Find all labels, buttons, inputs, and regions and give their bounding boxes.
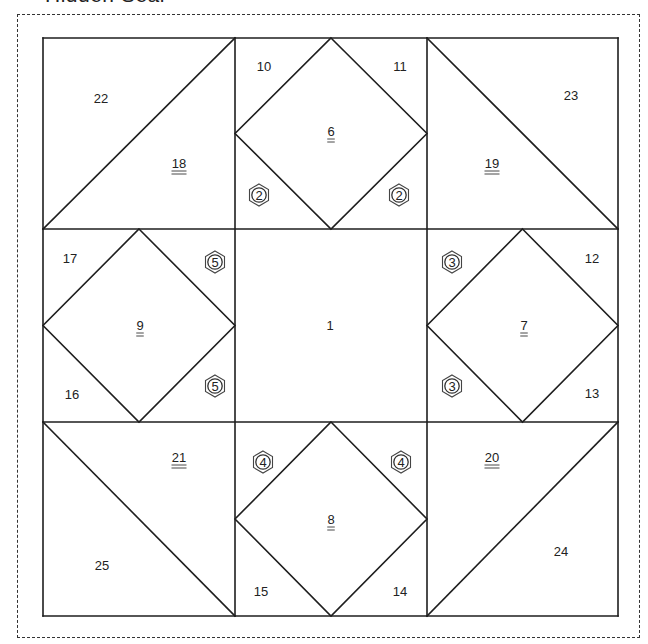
svg-text:16: 16 <box>65 387 79 402</box>
svg-text:19: 19 <box>485 156 499 171</box>
sewing-order-badge: 2 <box>390 184 409 206</box>
piece-label-15: 15 <box>254 584 268 599</box>
svg-text:7: 7 <box>520 318 527 333</box>
svg-text:13: 13 <box>585 386 599 401</box>
piece-label-19: 19 <box>485 156 500 174</box>
svg-text:3: 3 <box>448 255 455 270</box>
svg-text:9: 9 <box>136 318 143 333</box>
svg-text:21: 21 <box>172 450 186 465</box>
sewing-order-badge: 5 <box>206 375 225 397</box>
piece-label-24: 24 <box>554 544 568 559</box>
sewing-order-badge: 2 <box>250 184 269 206</box>
svg-text:12: 12 <box>585 251 599 266</box>
piece-label-25: 25 <box>95 558 109 573</box>
piece-label-12: 12 <box>585 251 599 266</box>
diagonal-bottom-right <box>427 422 618 616</box>
piece-label-6: 6 <box>327 124 335 142</box>
sewing-order-badge: 4 <box>254 451 273 473</box>
diagonal-bottom-left <box>43 422 235 616</box>
svg-text:5: 5 <box>211 379 218 394</box>
sewing-order-badge: 3 <box>443 251 462 273</box>
piece-label-1: 1 <box>326 318 333 333</box>
sewing-order-badge: 5 <box>206 251 225 273</box>
piece-label-18: 18 <box>172 156 187 174</box>
svg-text:1: 1 <box>326 318 333 333</box>
svg-text:17: 17 <box>63 251 77 266</box>
svg-text:18: 18 <box>172 156 186 171</box>
piece-label-16: 16 <box>65 387 79 402</box>
svg-text:4: 4 <box>259 455 266 470</box>
piece-label-14: 14 <box>393 584 407 599</box>
svg-text:25: 25 <box>95 558 109 573</box>
svg-text:15: 15 <box>254 584 268 599</box>
piece-labels: 1678910111213141516171819202122232425 <box>63 59 599 599</box>
piece-label-22: 22 <box>94 91 108 106</box>
quilt-block-diagram: 1678910111213141516171819202122232425 22… <box>0 0 648 644</box>
piece-label-8: 8 <box>327 512 335 530</box>
svg-text:11: 11 <box>393 59 407 74</box>
piece-label-11: 11 <box>393 59 407 74</box>
svg-text:22: 22 <box>94 91 108 106</box>
svg-text:5: 5 <box>211 255 218 270</box>
svg-text:4: 4 <box>397 455 404 470</box>
piece-label-20: 20 <box>485 450 500 468</box>
sewing-order-badge: 3 <box>443 375 462 397</box>
svg-text:23: 23 <box>564 88 578 103</box>
svg-text:24: 24 <box>554 544 568 559</box>
svg-text:3: 3 <box>448 379 455 394</box>
svg-text:10: 10 <box>257 59 271 74</box>
piece-label-13: 13 <box>585 386 599 401</box>
piece-label-9: 9 <box>136 318 144 336</box>
svg-text:8: 8 <box>327 512 334 527</box>
piece-label-17: 17 <box>63 251 77 266</box>
svg-text:2: 2 <box>395 188 402 203</box>
piece-label-23: 23 <box>564 88 578 103</box>
sewing-order-badge: 4 <box>392 451 411 473</box>
diagonal-top-right <box>427 38 618 229</box>
piece-label-21: 21 <box>172 450 187 468</box>
svg-text:14: 14 <box>393 584 407 599</box>
piece-label-10: 10 <box>257 59 271 74</box>
diagonal-top-left <box>43 38 235 229</box>
svg-text:6: 6 <box>327 124 334 139</box>
piece-label-7: 7 <box>520 318 528 336</box>
svg-text:2: 2 <box>255 188 262 203</box>
svg-text:20: 20 <box>485 450 499 465</box>
